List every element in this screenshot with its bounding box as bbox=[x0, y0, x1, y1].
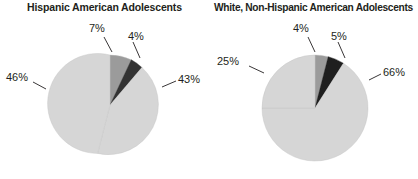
leader-line-left-4 bbox=[133, 42, 140, 58]
pie-chart-figure: Hispanic American Adolescents 7% 4% 43% … bbox=[0, 0, 418, 179]
pie-left-label-43: 43% bbox=[178, 74, 200, 85]
pie-right-label-66: 66% bbox=[383, 67, 405, 78]
pie-left-slice-46 bbox=[48, 53, 110, 153]
pie-left-label-4: 4% bbox=[128, 31, 144, 42]
pie-left-label-46: 46% bbox=[6, 72, 28, 83]
leader-line-right-66 bbox=[369, 74, 381, 80]
pie-right bbox=[209, 0, 418, 179]
leader-line-right-25 bbox=[249, 66, 264, 73]
chart-panel-hispanic: Hispanic American Adolescents 7% 4% 43% … bbox=[0, 0, 209, 179]
leader-line-right-4 bbox=[308, 37, 315, 52]
chart-panel-white-non-hispanic: White, Non-Hispanic American Adolescents… bbox=[209, 0, 418, 179]
pie-right-slice-25 bbox=[262, 55, 315, 108]
leader-line-left-7 bbox=[104, 37, 112, 52]
leader-line-right-5 bbox=[338, 42, 345, 58]
pie-right-label-5: 5% bbox=[331, 31, 347, 42]
leader-line-left-46 bbox=[33, 82, 46, 89]
pie-right-label-25: 25% bbox=[217, 56, 239, 67]
pie-left-label-7: 7% bbox=[89, 23, 105, 34]
leader-line-left-43 bbox=[162, 81, 176, 87]
pie-right-label-4: 4% bbox=[293, 23, 309, 34]
